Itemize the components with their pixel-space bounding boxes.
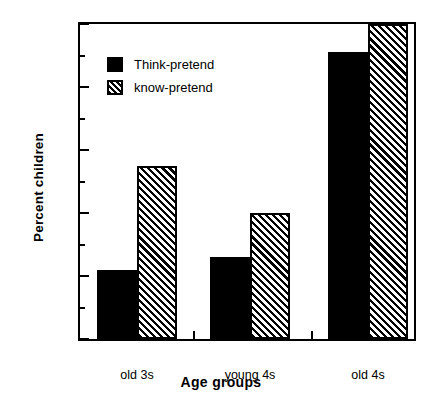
legend-label-think-pretend: Think-pretend [134, 57, 214, 72]
y-axis-tick [80, 212, 89, 214]
x-axis-title: Age groups [0, 374, 442, 390]
bar-old-4s-think-pretend [328, 52, 368, 339]
legend-item-think-pretend: Think-pretend [107, 56, 214, 72]
bar-young-4s-think-pretend [210, 257, 250, 339]
y-axis-tick [80, 338, 89, 340]
legend-item-know-pretend: know-pretend [107, 79, 214, 95]
legend-swatch-hatched-icon [107, 80, 123, 95]
y-axis-minor-tick [80, 118, 85, 120]
legend-swatch-solid-icon [107, 57, 123, 72]
bar-old-4s-know-pretend [368, 24, 408, 339]
x-axis-tick [311, 331, 313, 339]
y-axis-minor-tick [80, 181, 85, 183]
bar-old-3s-know-pretend [137, 166, 177, 339]
bar-chart-figure: Percent children 020406080100old 3syoung… [0, 0, 442, 412]
y-axis-minor-tick [80, 55, 85, 57]
legend-label-know-pretend: know-pretend [134, 80, 213, 95]
y-axis-title: Percent children [31, 88, 46, 288]
y-axis-tick [80, 275, 89, 277]
y-axis-tick [80, 149, 89, 151]
y-axis-tick [80, 23, 89, 25]
y-axis-minor-tick [80, 307, 85, 309]
y-axis-tick [80, 86, 89, 88]
chart-legend: Think-pretend know-pretend [107, 56, 214, 95]
y-axis-minor-tick [80, 244, 85, 246]
bar-young-4s-know-pretend [250, 213, 290, 339]
bar-old-3s-think-pretend [97, 270, 137, 339]
x-axis-tick [193, 331, 195, 339]
